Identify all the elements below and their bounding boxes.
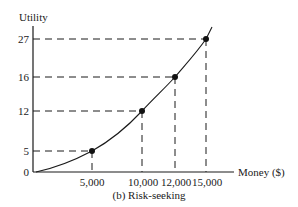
y-tick-16: 16 [18, 71, 30, 83]
y-tick-12: 12 [18, 105, 29, 117]
x-tick-15000: 15,000 [192, 176, 223, 188]
data-point-10000 [139, 108, 145, 114]
y-axis-title: Utility [19, 11, 48, 23]
data-point-12000 [172, 74, 178, 80]
chart-caption: (b) Risk-seeking [112, 189, 186, 202]
y-tick-5: 5 [24, 145, 30, 157]
data-point-15000 [203, 36, 209, 42]
data-point-5000 [89, 148, 95, 154]
y-tick-27: 27 [18, 33, 30, 45]
x-tick-10000: 10,000 [128, 176, 159, 188]
utility-curve [36, 27, 212, 172]
y-tick-0: 0 [24, 166, 30, 178]
x-tick-5000: 5,000 [80, 176, 105, 188]
x-tick-12000: 12,000 [161, 176, 192, 188]
x-axis-title: Money ($) [238, 166, 285, 179]
utility-chart: Utility 27 16 12 5 0 5,000 10,000 12,000… [0, 0, 298, 207]
